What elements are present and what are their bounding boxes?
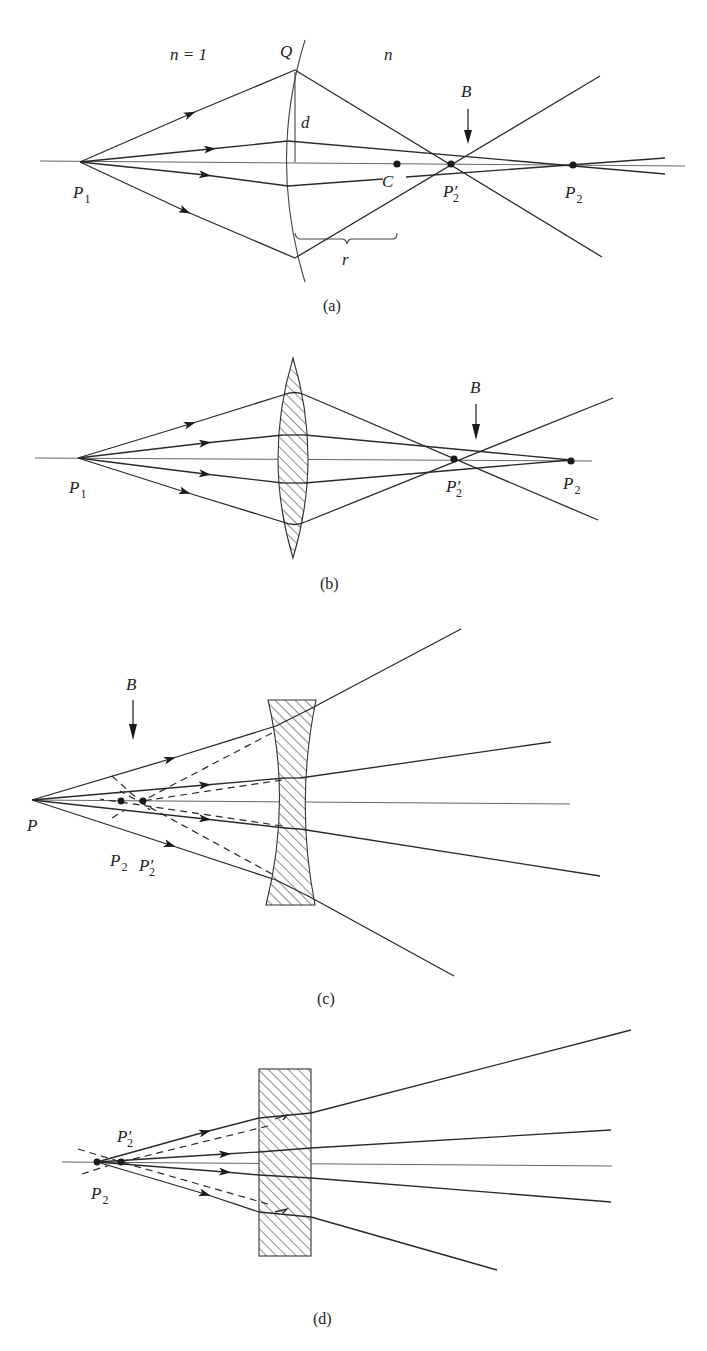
panel-c: B P P2 P′2 (c) bbox=[26, 629, 600, 1008]
marginal-image-point bbox=[140, 798, 147, 805]
refracting-surface bbox=[287, 40, 306, 282]
caption-a: (a) bbox=[323, 297, 341, 315]
figure-canvas: n = 1 n Q d C r B P1 P′2 P2 (a) B bbox=[0, 0, 707, 1351]
virtual-ray-2 bbox=[121, 1162, 268, 1204]
best-focus-arrow-icon bbox=[129, 724, 137, 740]
ray-4-in bbox=[97, 1162, 259, 1212]
ray-2-in bbox=[78, 435, 283, 458]
paraxial-image-label: P2 bbox=[564, 183, 582, 206]
ray-1-out bbox=[310, 629, 461, 709]
panel-b: B P1 P′2 P2 (b) bbox=[35, 358, 613, 593]
panel-a: n = 1 n Q d C r B P1 P′2 P2 (a) bbox=[40, 40, 685, 315]
best-focus-B-label: B bbox=[126, 675, 137, 694]
glass-slab bbox=[259, 1069, 311, 1256]
virtual-cross-2 bbox=[112, 810, 125, 818]
ray-1-in bbox=[78, 395, 283, 458]
ray-marginal-bottom-in bbox=[80, 162, 295, 258]
ray-4-out bbox=[311, 1217, 497, 1270]
paraxial-image-point bbox=[118, 798, 125, 805]
ray-3-out bbox=[300, 829, 600, 876]
best-focus-arrow-icon bbox=[472, 424, 480, 440]
ray-paraxial-top-out bbox=[288, 141, 665, 174]
marginal-image-point bbox=[118, 1159, 125, 1166]
best-focus-B-label: B bbox=[461, 82, 472, 101]
paraxial-image-label: P2 bbox=[562, 474, 580, 497]
ray-1-out bbox=[311, 1030, 631, 1113]
marginal-image-label: P′2 bbox=[445, 477, 462, 500]
center-C-label: C bbox=[382, 172, 394, 191]
object-P1-label: P1 bbox=[72, 183, 90, 206]
paraxial-image-point bbox=[94, 1159, 101, 1166]
ray-marginal-top-in bbox=[80, 70, 295, 162]
object-P-label: P bbox=[26, 816, 37, 835]
ray-paraxial-bottom-out-a bbox=[288, 179, 383, 186]
medium-right-label: n bbox=[384, 45, 393, 64]
ray-3-in bbox=[32, 800, 285, 828]
ray-paraxial-bottom-in bbox=[80, 162, 288, 186]
caption-d: (d) bbox=[313, 1310, 332, 1328]
panel-d: P′2 P2 (d) bbox=[62, 1030, 631, 1328]
optical-axis bbox=[35, 458, 592, 461]
medium-left-label: n = 1 bbox=[170, 45, 207, 64]
ray-3-in bbox=[78, 458, 283, 483]
object-P1-label: P1 bbox=[68, 478, 86, 501]
ray-2-out bbox=[300, 742, 551, 778]
ray-marginal-bottom-out bbox=[295, 76, 600, 258]
best-focus-B-label: B bbox=[470, 378, 481, 397]
marginal-image-point bbox=[447, 160, 454, 167]
center-point-C bbox=[393, 160, 400, 167]
height-d-label: d bbox=[301, 113, 310, 132]
ray-paraxial-top-in bbox=[80, 141, 288, 162]
ray-3-out bbox=[311, 1178, 611, 1202]
radius-r-label: r bbox=[342, 250, 349, 269]
ray-3-out bbox=[305, 460, 571, 483]
radius-brace bbox=[295, 233, 397, 244]
caption-b: (b) bbox=[320, 575, 339, 593]
paraxial-image-point bbox=[567, 457, 574, 464]
paraxial-image-point bbox=[569, 161, 576, 168]
point-Q-label: Q bbox=[280, 42, 292, 61]
ray-2-out bbox=[311, 1130, 611, 1148]
marginal-image-point bbox=[450, 455, 457, 462]
convex-lens bbox=[278, 358, 308, 558]
ray-4-out bbox=[310, 897, 454, 976]
virtual-ray-3 bbox=[100, 799, 282, 826]
ray-2-out bbox=[305, 435, 571, 460]
best-focus-arrow-icon bbox=[464, 130, 472, 144]
virtual-cross-2 bbox=[82, 1165, 110, 1174]
marginal-image-label: P′2 bbox=[442, 182, 459, 205]
marginal-image-label: P′2 bbox=[138, 856, 155, 879]
caption-c: (c) bbox=[317, 990, 335, 1008]
ray-4-in bbox=[78, 458, 283, 522]
virtual-ray-1 bbox=[121, 1126, 268, 1162]
marginal-image-label: P′2 bbox=[116, 1127, 133, 1150]
paraxial-image-label: P2 bbox=[109, 851, 127, 874]
paraxial-image-label: P2 bbox=[90, 1184, 108, 1207]
